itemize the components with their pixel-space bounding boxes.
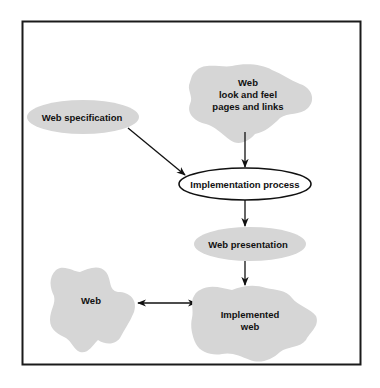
web-specification-node: Web specification (27, 100, 139, 134)
web-label: Web (81, 295, 101, 306)
implementation-process-label: Implementation process (190, 179, 299, 190)
look-and-feel-line-3: pages and links (212, 101, 283, 112)
diagram-canvas: Web look and feel pages and links Web sp… (0, 0, 380, 388)
implemented-web-line-2: web (240, 321, 260, 332)
web-presentation-node: Web presentation (194, 227, 306, 261)
implementation-process-node: Implementation process (179, 168, 311, 200)
implemented-web-line-1: Implemented (221, 309, 280, 320)
web-presentation-label: Web presentation (208, 239, 288, 250)
look-and-feel-line-2: look and feel (219, 89, 277, 100)
look-and-feel-line-1: Web (238, 77, 258, 88)
web-specification-label: Web specification (42, 112, 123, 123)
